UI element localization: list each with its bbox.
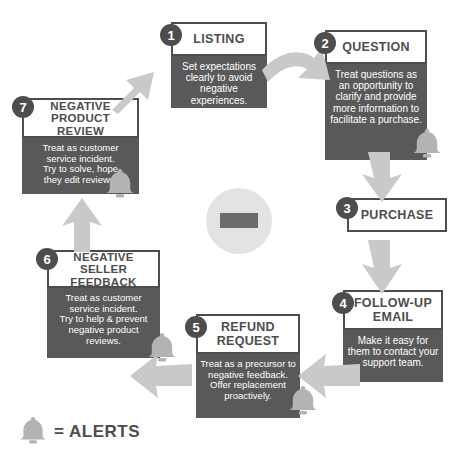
legend-bell-icon xyxy=(18,414,48,450)
step-box-refund-request[interactable]: REFUND REQUEST Treat as a precursor to n… xyxy=(196,314,300,418)
diagram-canvas: LISTING Set expectations clearly to avoi… xyxy=(0,0,462,452)
arrow-step2-to-step3 xyxy=(358,152,410,206)
step-body-negative-seller-feedback: Treat as customer service incident. Try … xyxy=(47,288,160,358)
step-title-listing: LISTING xyxy=(171,22,267,56)
alert-bell-icon-refund-request xyxy=(287,383,319,417)
step-number-badge-1: 1 xyxy=(160,24,182,46)
step-body-refund-request: Treat as a precursor to negative feedbac… xyxy=(196,354,300,418)
alert-bell-icon-question xyxy=(411,126,443,160)
legend: = ALERTS xyxy=(18,414,140,450)
minus-sign-icon xyxy=(220,213,258,228)
alert-bell-icon-negative-seller-feedback xyxy=(146,330,178,364)
step-number-badge-5: 5 xyxy=(185,316,207,338)
step-title-question: QUESTION xyxy=(325,30,427,64)
step-number-badge-6: 6 xyxy=(36,248,58,270)
step-box-negative-seller-feedback[interactable]: NEGATIVE SELLER FEEDBACK Treat as custom… xyxy=(47,250,160,358)
step-title-negative-seller-feedback: NEGATIVE SELLER FEEDBACK xyxy=(47,250,160,288)
step-number-badge-3: 3 xyxy=(336,197,358,219)
step-title-refund-request: REFUND REQUEST xyxy=(196,314,300,354)
step-number-badge-2: 2 xyxy=(314,32,336,54)
step-body-listing: Set expectations clearly to avoid negati… xyxy=(171,56,267,108)
step-number-badge-7: 7 xyxy=(12,96,34,118)
legend-label: = ALERTS xyxy=(54,422,140,442)
step-box-listing[interactable]: LISTING Set expectations clearly to avoi… xyxy=(171,22,267,108)
alert-bell-icon-negative-product-review xyxy=(104,166,136,200)
arrow-step7-to-step1 xyxy=(104,58,166,120)
step-number-badge-4: 4 xyxy=(332,292,354,314)
arrow-step3-to-step4 xyxy=(358,240,410,298)
arrow-step6-to-step7 xyxy=(58,196,108,254)
